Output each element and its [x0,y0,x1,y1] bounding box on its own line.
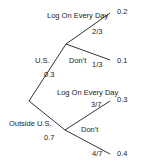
outside-label: Outside U.S. [9,120,52,128]
us-log-label: Log On Every Day [47,12,108,20]
us-dont-prob: 1/3 [92,61,102,69]
us-log-prob: 2/3 [92,28,102,36]
outside-prob: 0.7 [44,134,54,142]
outside-log-result: 0.3 [117,96,127,104]
us-log-result: 0.2 [117,8,127,16]
outside-dont-label: Don't [81,126,98,134]
us-dont-label: Don't [69,57,86,65]
outside-dont-prob: 4/7 [92,150,102,158]
us-prob: 0.3 [44,71,54,79]
us-label: U.S. [35,57,50,65]
tree-lines [0,0,141,163]
outside-log-label: Log On Every Day [57,89,118,97]
outside-dont-result: 0.4 [117,150,127,158]
outside-log-prob: 3/7 [91,101,101,109]
us-dont-result: 0.1 [117,57,127,65]
